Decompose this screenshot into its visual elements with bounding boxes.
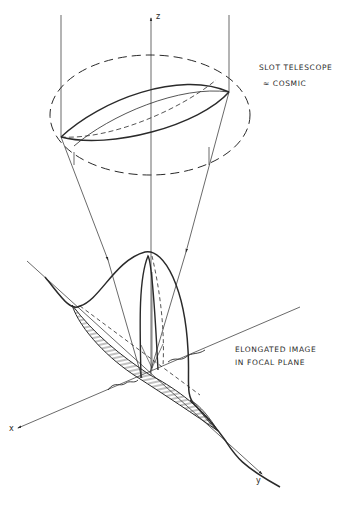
x-profile-wiggle-left [108, 380, 138, 390]
projection-line-2 [141, 345, 152, 368]
telescope-title-label: SLOT TELESCOPE [259, 63, 332, 72]
image-label-line1: ELONGATED IMAGE [235, 345, 316, 354]
aperture-dashed-ellipse [50, 55, 250, 175]
slot-lens-dashed [61, 80, 216, 137]
x-axis-label: x [9, 424, 14, 433]
slot-lens-lower [61, 92, 229, 141]
cone-ray-right [186, 92, 229, 252]
profile-dashed [152, 256, 163, 366]
slot-lens-inner [74, 91, 229, 146]
x-axis [18, 307, 300, 428]
image-label-line2: IN FOCAL PLANE [235, 358, 305, 367]
cone-ray-left [61, 137, 108, 260]
intensity-profile-y [45, 252, 280, 487]
intensity-profile-x [140, 256, 158, 378]
y-axis-label: y [256, 476, 261, 485]
telescope-diagram [0, 0, 352, 505]
telescope-subtitle-label: ≈ COSMIC [263, 79, 306, 88]
z-axis-label: z [156, 12, 160, 21]
